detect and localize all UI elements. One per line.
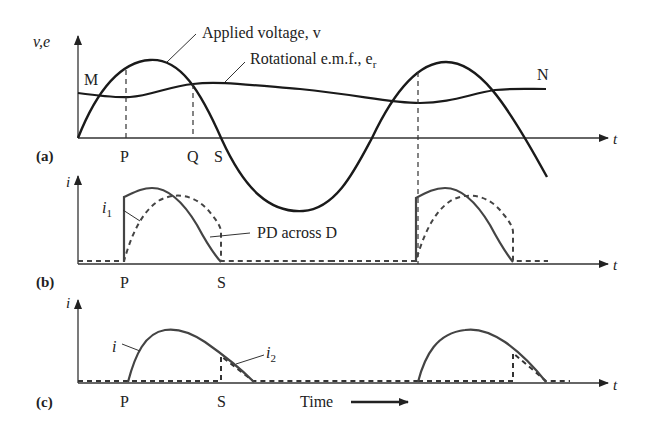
i-leader xyxy=(122,344,140,351)
panel-c: i t i i2 P S (c) Time xyxy=(36,295,618,411)
point-m-label: M xyxy=(84,71,98,88)
point-n-label: N xyxy=(537,66,549,83)
rotational-emf-text: Rotational e.m.f., e xyxy=(250,50,373,67)
applied-voltage-label: Applied voltage, v xyxy=(202,24,321,42)
panel-c-t-label: t xyxy=(613,377,618,393)
i-curve-1 xyxy=(128,330,254,383)
i1-subscript: 1 xyxy=(106,207,112,219)
i1-label: i1 xyxy=(102,199,112,219)
panel-a-t-label: t xyxy=(613,131,618,147)
i-label: i xyxy=(112,338,116,355)
point-p-label-c: P xyxy=(120,393,129,410)
point-s-label-b: S xyxy=(217,274,226,291)
i1-pulse-2 xyxy=(416,188,513,262)
rotational-emf-leader xyxy=(225,62,245,82)
i2-leader xyxy=(236,355,264,364)
pd-leader xyxy=(210,233,250,237)
panel-c-tag: (c) xyxy=(36,394,53,411)
panel-a-tag: (a) xyxy=(36,148,54,165)
point-q-label: Q xyxy=(187,148,199,165)
i-curve-2 xyxy=(418,330,546,383)
rotational-emf-label: Rotational e.m.f., er xyxy=(250,50,377,70)
pd-across-d-curve-2 xyxy=(330,196,548,261)
applied-voltage-text: Applied voltage, v xyxy=(202,24,321,42)
rotational-emf-subscript: r xyxy=(373,58,377,70)
panel-a-y-label: v,e xyxy=(33,33,50,50)
pd-across-d-label: PD across D xyxy=(257,224,337,241)
i2-label: i2 xyxy=(266,344,276,364)
rotational-emf-curve xyxy=(78,83,546,103)
time-label: Time xyxy=(300,393,333,410)
applied-voltage-leader xyxy=(167,34,196,62)
point-s-label-c: S xyxy=(217,393,226,410)
waveform-diagram: v,e t Applied voltage, v Rotational e.m.… xyxy=(0,0,661,433)
panel-b: i t i1 PD across D P S (b) xyxy=(36,174,618,291)
point-p-label-a: P xyxy=(120,148,129,165)
panel-b-tag: (b) xyxy=(36,274,54,291)
i1-leader xyxy=(123,210,140,221)
i2-subscript: 2 xyxy=(270,352,276,364)
point-s-label-a: S xyxy=(214,148,223,165)
panel-b-y-label: i xyxy=(66,174,70,190)
i2-curve-2 xyxy=(418,353,570,381)
panel-c-y-label: i xyxy=(66,295,70,311)
point-p-label-b: P xyxy=(120,274,129,291)
panel-b-t-label: t xyxy=(613,257,618,273)
